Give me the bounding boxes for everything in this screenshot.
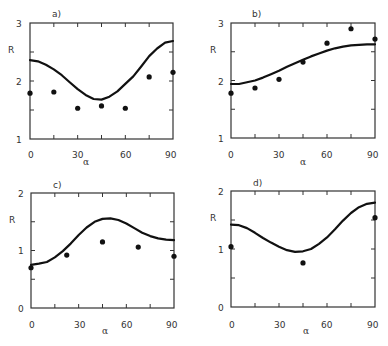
panel-a-xtick-30: 30: [72, 150, 84, 160]
panel-c-xtick-60: 60: [121, 320, 133, 330]
panel-c-xtick-90: 90: [166, 320, 178, 330]
panel-c-data-point: [28, 265, 33, 270]
panel-d-data-point: [228, 244, 233, 249]
panel-b-ytick-2: 2: [218, 77, 224, 87]
panel-d-title: d): [253, 178, 262, 188]
panel-a-data-point: [147, 74, 152, 79]
panel-c-xtick-30: 30: [74, 320, 86, 330]
panel-d-ylabel: R: [210, 213, 216, 223]
panel-b: b) R α 1 2 3 0 30 60 90: [210, 9, 379, 167]
panel-a-ytick-3: 3: [16, 19, 22, 29]
panel-b-xtick-90: 90: [367, 150, 379, 160]
panel-a-data-point: [123, 106, 128, 111]
panel-c-data-point: [64, 253, 69, 258]
panel-b-data-point: [324, 41, 329, 46]
panel-b-ytick-1: 1: [218, 134, 224, 144]
panel-a-data-point: [51, 89, 56, 94]
panel-a-ylabel: R: [8, 45, 14, 55]
figure: a) R α 1 2 3 0 30 60 90 b) R α 1 2 3 0 3…: [0, 0, 388, 346]
panel-d-xtick-60: 60: [321, 320, 333, 330]
panel-b-data-point: [276, 77, 281, 82]
panel-b-title: b): [252, 9, 261, 19]
panel-d-ytick-2: 2: [218, 187, 224, 197]
panel-a-xtick-0: 0: [28, 150, 34, 160]
panel-d-xtick-0: 0: [229, 320, 235, 330]
panel-c-frame: [31, 193, 174, 308]
panel-b-xtick-30: 30: [273, 150, 285, 160]
panel-a-frame: [30, 23, 173, 139]
panel-a-ytick-2: 2: [16, 77, 22, 87]
panel-a-ytick-1: 1: [16, 135, 22, 145]
panel-a-data-point: [75, 106, 80, 111]
panel-a-xtick-60: 60: [120, 150, 132, 160]
panel-c-data-point: [171, 254, 176, 259]
panel-c-title: c): [53, 180, 61, 190]
panel-a-data-point: [170, 70, 175, 75]
panel-b-ytick-3: 3: [218, 19, 224, 29]
panel-c-xtick-0: 0: [29, 320, 35, 330]
panel-c-ytick-2: 2: [18, 189, 24, 199]
panel-b-ylabel: R: [210, 45, 216, 55]
panel-c-ylabel: R: [9, 215, 15, 225]
panel-b-data-point: [348, 26, 353, 31]
panel-a-title: a): [52, 9, 61, 19]
panel-b-data-point: [372, 37, 377, 42]
panel-d-model-curve: [231, 203, 375, 252]
panel-a-xlabel: α: [83, 157, 89, 167]
panel-a-model-curve: [30, 41, 173, 100]
panel-d-xlabel: α: [303, 326, 309, 336]
panel-a: a) R α 1 2 3 0 30 60 90: [8, 9, 177, 167]
panel-b-xtick-60: 60: [321, 150, 333, 160]
panel-d-data-point: [300, 260, 305, 265]
panel-d-ytick-0: 0: [218, 303, 224, 313]
panel-a-xtick-90: 90: [165, 150, 177, 160]
panel-b-data-point: [300, 60, 305, 65]
panel-d: d) R α 0 1 2 0 30 60 90: [210, 178, 379, 336]
panel-c-data-point: [136, 244, 141, 249]
panel-a-data-point: [99, 103, 104, 108]
panel-d-frame: [231, 191, 375, 307]
panel-d-xtick-90: 90: [367, 320, 379, 330]
panel-c-data-point: [100, 239, 105, 244]
panel-c: c) R α 0 1 2 0 30 60 90: [9, 180, 178, 336]
panel-d-ytick-1: 1: [218, 245, 224, 255]
panel-b-data-point: [252, 85, 257, 90]
panel-b-xtick-0: 0: [228, 150, 234, 160]
panel-d-data-point: [372, 215, 377, 220]
panel-b-xlabel: α: [300, 157, 306, 167]
panel-a-data-point: [27, 91, 32, 96]
panel-c-ytick-0: 0: [18, 304, 24, 314]
panel-d-xtick-30: 30: [274, 320, 286, 330]
panel-c-xlabel: α: [102, 326, 108, 336]
panel-c-ytick-1: 1: [18, 246, 24, 256]
panel-b-data-point: [228, 91, 233, 96]
